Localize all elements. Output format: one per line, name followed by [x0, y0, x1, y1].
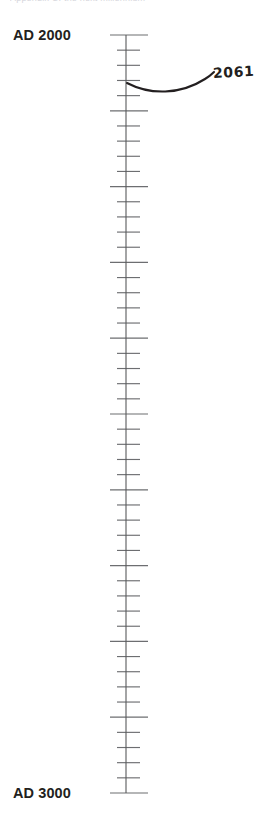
- tick-marks: [110, 35, 148, 793]
- annotation-label-2061: 2061: [213, 63, 255, 81]
- timeline-axis-graphic: [0, 0, 271, 821]
- axis-label-end: AD 3000: [13, 785, 71, 801]
- timeline-figure: Appendix C: the next millennium AD 2000 …: [0, 0, 271, 821]
- axis-label-start: AD 2000: [13, 27, 71, 43]
- annotation-leader-curve: [127, 72, 214, 92]
